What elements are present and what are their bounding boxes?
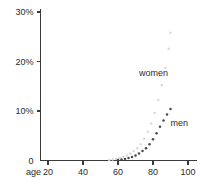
- x-axis-label: age: [26, 167, 41, 177]
- data-point: [162, 119, 165, 122]
- data-point: [131, 156, 134, 159]
- x-axis-ticks: 20406080100: [43, 161, 196, 177]
- data-point: [141, 150, 144, 153]
- data-point: [143, 137, 146, 140]
- y-axis-ticks: 010%20%30%: [15, 7, 40, 166]
- data-point: [169, 32, 172, 35]
- data-point: [127, 157, 130, 160]
- data-point: [136, 147, 139, 150]
- axes-group: [41, 9, 197, 160]
- x-tick-label: 80: [148, 167, 158, 177]
- data-point: [157, 99, 160, 102]
- y-tick-label: 10%: [15, 106, 33, 116]
- x-tick-label: 40: [78, 167, 88, 177]
- series-label-men: men: [171, 118, 189, 128]
- data-point: [124, 158, 127, 161]
- data-point: [150, 122, 153, 125]
- data-point: [147, 131, 150, 134]
- data-point: [166, 113, 169, 116]
- chart-container: 010%20%30% 20406080100 age women men: [0, 0, 202, 194]
- series-label-women: women: [138, 68, 168, 78]
- y-tick-label: 0: [28, 156, 33, 166]
- data-point: [120, 158, 123, 161]
- data-point: [133, 150, 136, 153]
- data-point: [154, 112, 157, 115]
- data-point: [152, 138, 155, 141]
- data-point: [155, 132, 158, 135]
- data-point: [108, 159, 111, 162]
- data-point: [159, 126, 162, 129]
- data-point: [129, 152, 132, 155]
- x-tick-label: 60: [113, 167, 123, 177]
- data-point: [161, 84, 164, 87]
- x-tick-label: 20: [43, 167, 53, 177]
- data-point: [140, 143, 143, 146]
- chart-plot: 010%20%30% 20406080100 age women men: [0, 0, 202, 194]
- series-women-points: [108, 32, 172, 162]
- data-point: [134, 154, 137, 157]
- data-point: [148, 143, 151, 146]
- data-point: [126, 154, 129, 157]
- series-men-points: [117, 108, 172, 161]
- data-point: [168, 47, 171, 50]
- y-tick-label: 30%: [15, 7, 33, 17]
- data-point: [112, 158, 115, 161]
- data-point: [169, 108, 172, 111]
- data-point: [138, 152, 141, 155]
- x-tick-label: 100: [180, 167, 195, 177]
- data-point: [122, 156, 125, 159]
- data-point: [145, 147, 148, 150]
- data-point: [117, 159, 120, 162]
- y-tick-label: 20%: [15, 57, 33, 67]
